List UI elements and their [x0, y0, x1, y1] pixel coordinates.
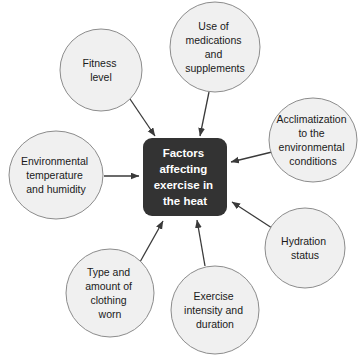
- connector-clothing-to-center: [140, 221, 163, 262]
- node-medications-supplements: Use of medications and supplements: [170, 2, 260, 92]
- node-clothing: Type and amount of clothing worn: [66, 249, 154, 337]
- connector-acclimatization-to-center: [231, 152, 272, 162]
- node-fitness-level: Fitness level: [60, 29, 142, 111]
- concept-map-canvas: Factors affecting exercise in the heat F…: [0, 0, 362, 358]
- connector-fitness-level-to-center: [130, 99, 155, 136]
- connector-hydration-status-to-center: [232, 202, 272, 228]
- connector-medications-supplements-to-center: [200, 92, 209, 136]
- node-exercise-intensity-duration: Exercise intensity and duration: [171, 266, 259, 354]
- connector-exercise-intensity-duration-to-center: [197, 220, 205, 266]
- node-environmental-temp-humidity: Environmental temperature and humidity: [9, 131, 103, 219]
- center-node: Factors affecting exercise in the heat: [143, 138, 227, 216]
- node-acclimatization: Acclimatization to the environmental con…: [269, 98, 357, 182]
- node-environmental-temp-humidity-label: Environmental temperature and humidity: [21, 155, 91, 195]
- concept-map-diagram: Factors affecting exercise in the heat F…: [0, 0, 362, 358]
- node-hydration-status: Hydration status: [265, 208, 345, 288]
